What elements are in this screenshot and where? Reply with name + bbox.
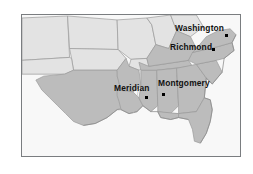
state-kansas bbox=[68, 16, 119, 50]
city-label-washington: Washington bbox=[175, 24, 224, 33]
city-label-meridian: Meridian bbox=[114, 84, 150, 93]
state-oklahoma bbox=[70, 49, 126, 71]
city-dot-washington bbox=[225, 34, 228, 37]
page-root: Washington Richmond Meridian Montgomery bbox=[0, 0, 253, 174]
city-label-montgomery: Montgomery bbox=[158, 79, 210, 88]
city-dot-meridian bbox=[145, 96, 148, 99]
state-new-mexico bbox=[22, 57, 74, 74]
map-figure: Washington Richmond Meridian Montgomery bbox=[21, 14, 241, 157]
city-label-richmond: Richmond bbox=[170, 43, 212, 52]
city-dot-montgomery bbox=[162, 93, 165, 96]
state-colorado bbox=[22, 16, 70, 60]
city-dot-richmond bbox=[212, 48, 215, 51]
state-alabama bbox=[157, 68, 179, 113]
